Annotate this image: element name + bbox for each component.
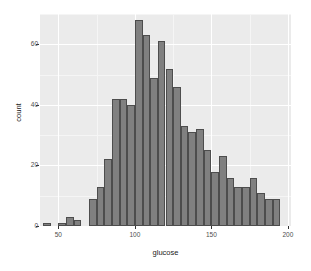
histogram-bar — [227, 178, 235, 226]
histogram-bar — [181, 126, 189, 226]
y-axis-tick-label: 0 — [8, 222, 38, 229]
histogram-bar — [188, 132, 196, 226]
x-axis-label: glucose — [40, 248, 291, 257]
histogram-bar — [74, 220, 82, 226]
histogram-bar — [104, 159, 112, 226]
x-axis-tick-label: 100 — [120, 231, 150, 238]
histogram-bar — [173, 87, 181, 226]
gridline-minor-horizontal — [40, 14, 291, 15]
histogram-bar — [127, 105, 135, 226]
x-axis-tick-mark — [135, 226, 136, 229]
gridline-major-vertical — [58, 14, 59, 226]
histogram-bar — [166, 69, 174, 226]
histogram-bar — [97, 187, 105, 226]
histogram-bar — [273, 199, 281, 226]
histogram-bar — [211, 172, 219, 227]
x-axis-tick-label: 150 — [196, 231, 226, 238]
histogram-bar — [250, 178, 258, 226]
x-axis-tick-mark — [288, 226, 289, 229]
histogram-bar — [265, 199, 273, 226]
histogram-bar — [120, 99, 128, 226]
histogram-bar — [143, 35, 151, 226]
histogram-bar — [58, 223, 66, 226]
histogram-bar — [135, 20, 143, 226]
histogram-bar — [257, 193, 265, 226]
y-axis-tick-label: 40 — [8, 101, 38, 108]
y-axis-tick-label: 60 — [8, 40, 38, 47]
x-axis-tick-mark — [211, 226, 212, 229]
histogram-bar — [234, 187, 242, 226]
histogram-bar — [112, 99, 120, 226]
gridline-major-vertical — [288, 14, 289, 226]
plot-panel — [40, 14, 291, 226]
histogram-bar — [66, 217, 74, 226]
y-axis-label: count — [14, 83, 23, 143]
histogram-bar — [158, 41, 166, 226]
gridline-major-horizontal — [40, 44, 291, 45]
histogram-bar — [150, 78, 158, 226]
histogram-bar — [242, 187, 250, 226]
histogram-bar — [196, 129, 204, 226]
histogram-bar — [204, 150, 212, 226]
histogram-chart: 020406050100150200 count glucose — [0, 0, 311, 271]
y-axis-tick-label: 20 — [8, 161, 38, 168]
histogram-bar — [43, 223, 51, 226]
histogram-bar — [219, 156, 227, 226]
histogram-bar — [89, 199, 97, 226]
x-axis-tick-label: 50 — [43, 231, 73, 238]
x-axis-tick-mark — [58, 226, 59, 229]
x-axis-tick-label: 200 — [273, 231, 303, 238]
